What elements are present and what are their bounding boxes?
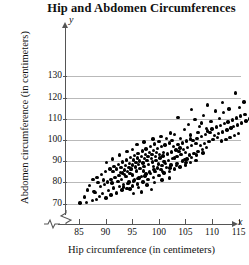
y-tick-value: 130 [38,71,62,80]
scatter-point [136,177,139,180]
scatter-point [193,118,196,121]
scatter-point [120,188,123,191]
y-tick-value: 110 [38,114,62,123]
scatter-point [194,142,197,145]
y-tick-label: 130 [32,71,62,81]
scatter-point [128,187,131,190]
scatter-point [157,162,160,165]
scatter-point [104,170,107,173]
scatter-point [110,181,113,184]
scatter-point [147,163,150,166]
scatter-point [83,195,86,198]
scatter-point [170,139,173,142]
scatter-point [161,154,164,157]
scatter-point [215,125,218,128]
scatter-point [190,156,193,159]
gridline [66,76,241,77]
scatter-point [168,166,171,169]
scatter-point [154,155,157,158]
scatter-point [120,178,123,181]
scatter-point [218,117,221,120]
scatter-point [198,125,201,128]
scatter-point [173,133,176,136]
scatter-point [125,158,128,161]
scatter-point [125,150,128,153]
y-tick-value: 120 [38,93,62,102]
scatter-point [202,114,205,117]
scatter-point [142,165,145,168]
scatter-point [126,170,129,173]
chart-page: Hip and Abdomen Circumferences Abdomen c… [0,0,249,265]
scatter-point [137,186,140,189]
scatter-point [124,164,127,167]
scatter-point [98,195,101,198]
scatter-point [222,111,225,114]
y-axis-break-icon [59,210,73,225]
scatter-point [135,169,138,172]
scatter-point [141,180,144,183]
scatter-point [115,167,118,170]
scatter-point [111,170,114,173]
scatter-point [199,144,202,147]
scatter-point [214,109,217,112]
scatter-point [103,183,106,186]
gridline [66,98,241,99]
scatter-point [126,182,129,185]
scatter-point [238,106,241,109]
scatter-point [236,123,239,126]
scatter-point [189,133,192,136]
scatter-point [86,188,89,191]
scatter-point [226,120,229,123]
scatter-point [232,125,235,128]
scatter-point [210,127,213,130]
scatter-point [148,151,151,154]
scatter-point [102,178,105,181]
scatter-point [173,167,176,170]
y-axis-line [65,28,66,215]
scatter-point [93,191,96,194]
y-tick-label: 80 [32,177,62,187]
scatter-point [207,140,210,143]
scatter-point [182,148,185,151]
scatter-point [144,147,147,150]
scatter-point [200,135,203,138]
scatter-point [209,120,212,123]
scatter-point [169,131,172,134]
scatter-point [150,188,153,191]
y-tick-label: 110 [32,114,62,124]
scatter-point [239,114,242,117]
y-tick-value: 80 [38,177,62,186]
scatter-point [105,161,108,164]
scatter-point [140,155,143,158]
gridline [66,204,241,205]
scatter-point [135,143,138,146]
scatter-point [88,184,91,187]
y-tick-label: 100 [32,135,62,145]
scatter-point [242,100,245,103]
scatter-point [156,147,159,150]
scatter-point [195,153,198,156]
scatter-point [99,185,102,188]
scatter-point [219,124,222,127]
scatter-point [225,128,228,131]
scatter-point [121,160,124,163]
scatter-point [128,172,131,175]
scatter-point [107,189,110,192]
scatter-point [134,165,137,168]
gridline [66,119,241,120]
scatter-point [101,192,104,195]
x-tick-value: 95 [120,227,144,237]
scatter-point [152,176,155,179]
scatter-point [196,131,199,134]
x-tick-value: 115 [227,227,249,237]
scatter-point [190,108,193,111]
scatter-point [168,170,171,173]
scatter-point [157,174,160,177]
scatter-point [201,151,204,154]
y-axis-arrow-icon [62,22,68,28]
x-axis-symbol: x [238,216,242,227]
y-axis-symbol: y [69,14,73,25]
scatter-point [159,135,162,138]
scatter-point [163,143,166,146]
scatter-point [186,146,189,149]
